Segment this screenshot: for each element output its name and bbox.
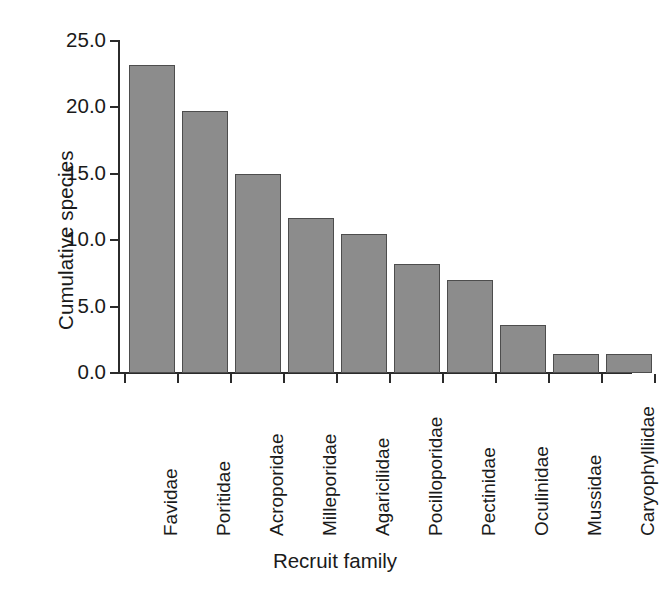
x-category-label: Mussidae <box>584 455 606 536</box>
x-category-label: Milleporidae <box>319 434 341 536</box>
y-tick-label: 5.0 <box>28 296 106 316</box>
y-tick-mark <box>110 239 118 241</box>
bar[interactable] <box>235 174 281 373</box>
x-tick-mark <box>177 374 179 383</box>
plot-area <box>118 41 630 373</box>
x-tick-mark <box>283 374 285 383</box>
bar[interactable] <box>500 325 546 373</box>
bar[interactable] <box>341 234 387 373</box>
x-category-label: Pocilloporidae <box>425 417 447 536</box>
x-category-label: Caryophylliidae <box>637 406 659 536</box>
x-tick-mark <box>124 374 126 383</box>
x-tick-mark <box>442 374 444 383</box>
y-tick-mark <box>110 40 118 42</box>
x-tick-mark <box>230 374 232 383</box>
y-tick-mark <box>110 372 118 374</box>
bar[interactable] <box>553 354 599 373</box>
bar[interactable] <box>182 111 228 373</box>
x-tick-mark <box>389 374 391 383</box>
x-axis-title: Recruit family <box>0 549 670 573</box>
x-tick-mark <box>495 374 497 383</box>
x-tick-mark <box>601 374 603 383</box>
x-category-label: Agaricilidae <box>372 438 394 536</box>
bar[interactable] <box>129 65 175 373</box>
y-tick-label: 15.0 <box>28 163 106 183</box>
bar[interactable] <box>447 280 493 373</box>
x-tick-mark <box>654 374 656 383</box>
y-tick-label: 10.0 <box>28 229 106 249</box>
y-tick-mark <box>110 106 118 108</box>
y-tick-mark <box>110 173 118 175</box>
x-tick-mark <box>336 374 338 383</box>
x-category-label: Oculinidae <box>531 446 553 536</box>
x-category-label: Acroporidae <box>266 434 288 536</box>
y-tick-mark <box>110 306 118 308</box>
bar[interactable] <box>288 218 334 373</box>
x-tick-mark <box>548 374 550 383</box>
bar-chart-figure: Cumulative species 0.05.010.015.020.025.… <box>0 0 670 599</box>
bar[interactable] <box>606 354 652 373</box>
x-category-label: Poritidae <box>213 461 235 536</box>
y-tick-label: 25.0 <box>28 30 106 50</box>
y-tick-label: 0.0 <box>28 362 106 382</box>
x-category-label: Favidae <box>160 468 182 536</box>
y-tick-label: 20.0 <box>28 96 106 116</box>
bar[interactable] <box>394 264 440 373</box>
x-category-label: Pectinidae <box>478 447 500 536</box>
